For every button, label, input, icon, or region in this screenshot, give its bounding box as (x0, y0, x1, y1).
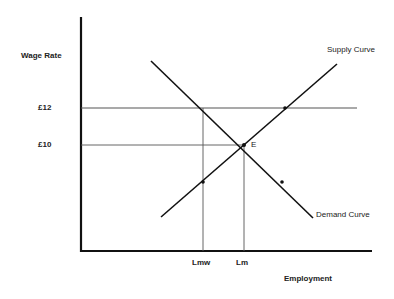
wage-diagram: Wage Rate £12 £10 Supply Curve Demand Cu… (0, 0, 394, 299)
supply-point-upper (283, 106, 287, 110)
x-axis-label: Employment (284, 274, 332, 283)
equilibrium-label: E (251, 140, 256, 149)
y-tick-10: £10 (38, 140, 51, 149)
supply-curve-label: Supply Curve (327, 45, 375, 54)
equilibrium-point (242, 143, 246, 147)
y-axis-label: Wage Rate (21, 51, 62, 60)
demand-point-lower (280, 180, 284, 184)
x-tick-lmw: Lmw (192, 258, 210, 267)
x-tick-lm: Lm (236, 258, 248, 267)
y-tick-12: £12 (38, 103, 51, 112)
supply-point-lower (201, 180, 205, 184)
demand-curve-label: Demand Curve (316, 210, 370, 219)
demand-curve (151, 61, 313, 218)
supply-curve (161, 64, 337, 217)
